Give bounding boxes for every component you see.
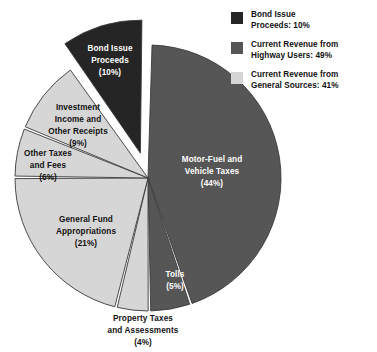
legend-item-bond-issue-proceeds[interactable]: Bond Issue Proceeds: 10% <box>231 10 377 31</box>
chart-legend: Bond Issue Proceeds: 10% Current Revenue… <box>231 10 377 100</box>
slice-label-motor-fuel-value: (44%) <box>201 179 224 188</box>
slice-label-general-fund-line2: Appropriations <box>56 227 116 236</box>
legend-label-line2: Proceeds: 10% <box>251 21 310 32</box>
legend-swatch-icon-bond-issue-proceeds <box>231 12 243 24</box>
legend-item-current-revenue-from-general-sources[interactable]: Current Revenue from General Sources: 41… <box>231 70 377 91</box>
legend-label-line2: Highway Users: 49% <box>251 51 338 62</box>
slice-label-motor-fuel-line2: Vehicle Taxes <box>185 167 240 176</box>
slice-label-general-fund-value: (21%) <box>75 239 98 248</box>
slice-label-property-taxes-line1: Property Taxes <box>113 314 173 323</box>
legend-label-line1: Current Revenue from <box>251 70 338 79</box>
slice-label-other-taxes-line2: and Fees <box>30 161 67 170</box>
slice-label-property-taxes-line2: and Assessments <box>108 326 179 335</box>
slice-label-other-taxes-line1: Other Taxes <box>24 149 72 158</box>
slice-label-motor-fuel-line1: Motor-Fuel and <box>182 155 243 164</box>
slice-label-tolls-line1: Tolls <box>166 270 185 279</box>
slice-label-bond-issue-line1: Bond Issue <box>87 44 132 53</box>
legend-swatch-icon-current-revenue-from-highway-users <box>231 42 243 54</box>
legend-label-line1: Current Revenue from <box>251 40 338 49</box>
slice-label-investment-income-line2: Income and <box>55 115 102 124</box>
slice-label-investment-income-value: (9%) <box>69 139 87 148</box>
slice-label-other-taxes-value: (6%) <box>39 173 57 182</box>
legend-label-line1: Bond Issue <box>251 10 296 19</box>
slice-label-general-fund-line1: General Fund <box>59 215 113 224</box>
legend-label-current-revenue-from-general-sources: Current Revenue from General Sources: 41… <box>251 70 338 91</box>
slice-label-investment-income-line1: Investment <box>56 103 100 112</box>
slice-label-tolls-value: (5%) <box>166 282 184 291</box>
legend-item-current-revenue-from-highway-users[interactable]: Current Revenue from Highway Users: 49% <box>231 40 377 61</box>
slice-label-bond-issue-line2: Proceeds <box>91 56 129 65</box>
slice-label-property-taxes-value: (4%) <box>134 338 152 347</box>
legend-swatch-icon-current-revenue-from-general-sources <box>231 72 243 84</box>
slice-label-bond-issue-value: (10%) <box>99 68 122 77</box>
pie-chart: Motor-Fuel and Vehicle Taxes (44%) Tolls… <box>0 0 377 352</box>
legend-label-bond-issue-proceeds: Bond Issue Proceeds: 10% <box>251 10 310 31</box>
legend-label-line2: General Sources: 41% <box>251 81 338 92</box>
slice-label-investment-income-line3: Other Receipts <box>48 127 108 136</box>
legend-label-current-revenue-from-highway-users: Current Revenue from Highway Users: 49% <box>251 40 338 61</box>
